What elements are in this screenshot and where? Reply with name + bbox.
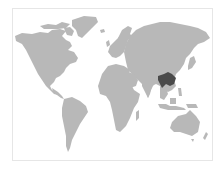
india [142, 80, 154, 98]
japan [188, 56, 196, 70]
asia [124, 22, 210, 98]
baffin-island [64, 27, 74, 36]
north-america [15, 29, 78, 95]
uk [106, 40, 110, 47]
madagascar [136, 110, 139, 121]
new-zealand [203, 132, 208, 140]
philippines [178, 88, 182, 96]
land [15, 16, 210, 152]
indonesia [158, 104, 186, 110]
greenland [72, 16, 98, 38]
australia [170, 110, 200, 136]
new-guinea [186, 104, 198, 108]
borneo [170, 98, 176, 104]
south-america [62, 97, 88, 152]
world-map [0, 0, 224, 173]
tasmania [191, 139, 194, 142]
iceland [100, 29, 105, 33]
